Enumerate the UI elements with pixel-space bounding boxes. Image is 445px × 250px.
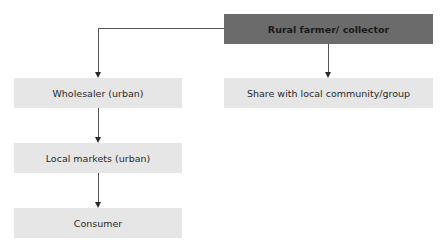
node-local-markets: Local markets (urban) (14, 143, 182, 173)
connector-farmer-wholesaler-horizontal (98, 28, 224, 29)
node-label: Rural farmer/ collector (268, 24, 389, 35)
connector-markets-consumer (98, 173, 99, 202)
node-wholesaler: Wholesaler (urban) (14, 78, 182, 108)
node-rural-farmer: Rural farmer/ collector (224, 14, 433, 44)
node-share-community: Share with local community/group (224, 78, 433, 108)
clipped-heading-fragment (100, 0, 160, 4)
node-consumer: Consumer (14, 208, 182, 238)
arrow-down-icon (325, 72, 331, 78)
arrow-down-icon (95, 72, 101, 78)
arrow-down-icon (95, 137, 101, 143)
connector-farmer-wholesaler-vertical (98, 28, 99, 72)
node-label: Local markets (urban) (46, 153, 151, 164)
connector-wholesaler-markets (98, 108, 99, 137)
node-label: Wholesaler (urban) (52, 88, 143, 99)
connector-farmer-share (328, 44, 329, 72)
arrow-down-icon (95, 202, 101, 208)
node-label: Consumer (74, 218, 122, 229)
node-label: Share with local community/group (247, 88, 410, 99)
